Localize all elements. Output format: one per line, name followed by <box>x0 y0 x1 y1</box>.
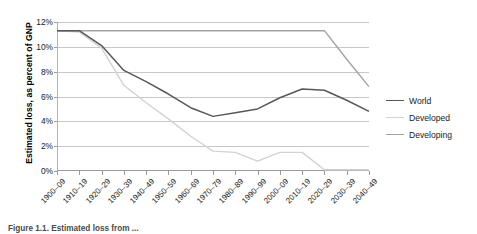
figure-caption: Figure 1.1. Estimated loss from ... <box>8 224 468 233</box>
series-line-developed <box>57 31 369 170</box>
plot-area: 0%2%4%6%8%10%12% 1900–091910–191920–2919… <box>57 22 369 171</box>
legend-item-world[interactable]: World <box>386 92 476 109</box>
chart-legend: WorldDevelopedDeveloping <box>386 92 476 143</box>
legend-item-developed[interactable]: Developed <box>386 109 476 126</box>
legend-swatch-icon <box>386 117 404 118</box>
legend-label: World <box>409 96 431 106</box>
x-axis-tick-mark <box>347 171 348 175</box>
x-axis-tick-mark <box>191 171 192 175</box>
x-axis-tick-mark <box>102 171 103 175</box>
y-axis-tick-label: 12% <box>36 17 53 27</box>
x-axis-tick-mark <box>369 171 370 175</box>
series-lines <box>57 22 369 171</box>
series-line-developing <box>57 31 369 87</box>
legend-swatch-icon <box>386 134 404 135</box>
y-axis-tick-label: 2% <box>41 141 53 151</box>
x-axis-tick-mark <box>213 171 214 175</box>
figure-container: Estimated loss, as percent of GNP 0%2%4%… <box>0 0 477 234</box>
x-axis-tick-mark <box>57 171 58 175</box>
y-axis-tick-label: 6% <box>41 92 53 102</box>
y-axis-tick-label: 10% <box>36 42 53 52</box>
legend-label: Developing <box>409 130 452 140</box>
y-axis-tick-label: 8% <box>41 67 53 77</box>
y-axis-title: Estimated loss, as percent of GNP <box>24 3 34 183</box>
legend-label: Developed <box>409 113 450 123</box>
x-axis-tick-mark <box>168 171 169 175</box>
y-axis-tick-label: 4% <box>41 116 53 126</box>
x-axis-tick-mark <box>146 171 147 175</box>
x-axis-tick-mark <box>280 171 281 175</box>
series-line-world <box>57 31 369 117</box>
x-axis-tick-mark <box>235 171 236 175</box>
legend-item-developing[interactable]: Developing <box>386 126 476 143</box>
x-axis-tick-mark <box>124 171 125 175</box>
x-axis-tick-mark <box>324 171 325 175</box>
y-axis-tick-label: 0% <box>41 166 53 176</box>
x-axis-tick-mark <box>302 171 303 175</box>
x-axis-tick-mark <box>79 171 80 175</box>
x-axis-tick-mark <box>258 171 259 175</box>
legend-swatch-icon <box>386 100 404 101</box>
